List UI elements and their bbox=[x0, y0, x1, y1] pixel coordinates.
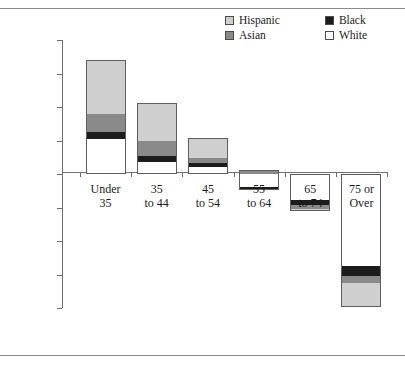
x-label-line: to 44 bbox=[145, 196, 169, 210]
x-tick bbox=[182, 172, 183, 177]
legend-swatch-hispanic bbox=[225, 16, 234, 25]
x-category-label: 55to 64 bbox=[247, 182, 271, 210]
y-tick bbox=[57, 74, 62, 75]
bar-segment-black bbox=[137, 156, 177, 162]
legend-swatch-asian bbox=[225, 31, 234, 40]
x-label-line: 45 bbox=[196, 182, 220, 196]
x-tick bbox=[131, 172, 132, 177]
x-tick bbox=[80, 172, 81, 177]
plot-area: 120,00090,00060,00030,0000-30,000-60,000… bbox=[62, 40, 387, 308]
bar-segment-hispanic bbox=[188, 138, 228, 158]
bar-under-35[interactable] bbox=[86, 40, 126, 308]
chart-legend: Hispanic Black Asian White bbox=[225, 14, 400, 41]
x-tick bbox=[285, 172, 286, 177]
y-tick bbox=[57, 308, 62, 309]
bar-segment-asian bbox=[188, 158, 228, 163]
legend-item-black: Black bbox=[325, 14, 400, 26]
y-axis-line bbox=[62, 40, 63, 308]
bar-35-to-44[interactable] bbox=[137, 40, 177, 308]
bar-segment-hispanic bbox=[341, 283, 381, 308]
legend-swatch-white bbox=[325, 31, 334, 40]
bar-segment-white bbox=[137, 162, 177, 174]
bar-segment-asian bbox=[137, 141, 177, 156]
x-label-line: 75 or bbox=[349, 182, 374, 196]
bar-segment-black bbox=[341, 266, 381, 276]
y-tick bbox=[57, 40, 62, 41]
bar-segment-hispanic bbox=[86, 60, 126, 114]
bar-75-or-over[interactable] bbox=[341, 40, 381, 308]
x-label-line: to 74 bbox=[298, 196, 322, 210]
bar-segment-hispanic bbox=[137, 103, 177, 141]
y-tick bbox=[57, 241, 62, 242]
y-tick bbox=[57, 174, 62, 175]
bar-45-to-54[interactable] bbox=[188, 40, 228, 308]
x-label-line: 65 bbox=[298, 182, 322, 196]
x-tick bbox=[387, 172, 388, 177]
bar-segment-white bbox=[188, 167, 228, 174]
legend-label-hispanic: Hispanic bbox=[239, 14, 280, 26]
x-label-line: to 64 bbox=[247, 196, 271, 210]
y-tick bbox=[57, 208, 62, 209]
y-tick bbox=[57, 275, 62, 276]
x-tick bbox=[336, 172, 337, 177]
x-category-label: 35to 44 bbox=[145, 182, 169, 210]
bar-segment-white bbox=[86, 139, 126, 174]
x-category-label: 65to 74 bbox=[298, 182, 322, 210]
legend-item-hispanic: Hispanic bbox=[225, 14, 313, 26]
bar-55-to-64[interactable] bbox=[239, 40, 279, 308]
bar-segment-asian bbox=[341, 276, 381, 283]
x-tick bbox=[234, 172, 235, 177]
bar-segment-black bbox=[86, 132, 126, 140]
legend-swatch-black bbox=[325, 16, 334, 25]
y-tick bbox=[57, 141, 62, 142]
x-label-line: 55 bbox=[247, 182, 271, 196]
x-label-line: 35 bbox=[91, 196, 121, 210]
chart-page: Hispanic Black Asian White 120,00090,000… bbox=[0, 0, 405, 369]
bottom-divider-rule bbox=[0, 355, 405, 356]
x-label-line: 35 bbox=[145, 182, 169, 196]
top-divider-rule bbox=[0, 8, 405, 9]
x-category-label: Under35 bbox=[91, 182, 121, 210]
y-tick bbox=[57, 107, 62, 108]
x-label-line: Over bbox=[349, 196, 374, 210]
x-label-line: to 54 bbox=[196, 196, 220, 210]
bar-segment-black bbox=[188, 163, 228, 167]
bar-segment-asian bbox=[86, 114, 126, 132]
x-label-line: Under bbox=[91, 182, 121, 196]
x-category-label: 75 orOver bbox=[349, 182, 374, 210]
bar-65-to-74[interactable] bbox=[290, 40, 330, 308]
legend-label-black: Black bbox=[339, 14, 366, 26]
x-category-label: 45to 54 bbox=[196, 182, 220, 210]
